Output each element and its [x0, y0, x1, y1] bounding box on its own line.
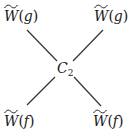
edge-bottom-left — [27, 77, 55, 105]
edge-top-left — [27, 30, 57, 61]
edge-top-right — [73, 30, 103, 61]
wide-tilde-icon — [4, 4, 18, 9]
edge-bottom-right — [74, 77, 101, 106]
argument: g — [24, 8, 33, 24]
w-symbol: W — [4, 114, 18, 128]
w-symbol: W — [94, 9, 108, 23]
vertex-diagram: W (g) W (g) C2 W (f) W (f) — [0, 0, 131, 136]
leg-label-top-left: W (g) — [4, 9, 38, 23]
leg-label-bottom-right: W (f) — [93, 114, 124, 128]
node-subscript: 2 — [68, 68, 74, 78]
leg-label-bottom-left: W (f) — [4, 114, 35, 128]
wide-tilde-icon — [94, 4, 108, 9]
wide-tilde-icon — [93, 109, 107, 114]
w-symbol: W — [4, 9, 18, 23]
wide-tilde-icon — [4, 109, 18, 114]
w-symbol: W — [93, 114, 107, 128]
leg-label-top-right: W (g) — [94, 9, 128, 23]
argument: g — [114, 8, 123, 24]
center-node-label: C2 — [57, 61, 73, 75]
